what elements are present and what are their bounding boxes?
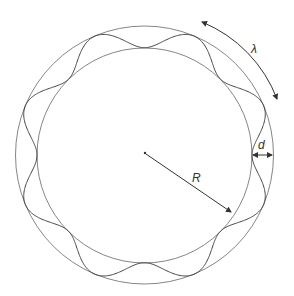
wavelength-label: λ [250, 42, 257, 56]
inner-circle [37, 48, 252, 263]
displacement-label: d [258, 138, 265, 152]
wavelength-arrow [202, 22, 277, 99]
wave-curve [24, 34, 266, 276]
center-point [144, 152, 146, 154]
radius-label: R [192, 171, 201, 185]
radius-arrow [146, 154, 231, 212]
diagram-canvas: λ d R [0, 0, 294, 296]
outer-circle [16, 26, 274, 284]
